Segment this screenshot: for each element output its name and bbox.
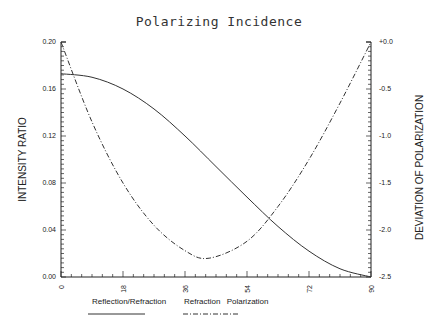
y2-tick-label: -2.0 bbox=[379, 226, 391, 233]
y2-tick-label: +0.0 bbox=[379, 38, 393, 45]
y-tick-label: 0.12 bbox=[42, 132, 56, 139]
y-tick-label: 0.16 bbox=[42, 85, 56, 92]
x-tick-label: 36 bbox=[182, 285, 189, 293]
y-tick-label: 0.00 bbox=[42, 273, 56, 280]
plot-area: 0.000.040.080.120.160.20-2.5-2.0-1.5-1.0… bbox=[0, 0, 438, 329]
legend-label-refraction-polarization: Refraction Polarization bbox=[184, 297, 268, 306]
x-tick-label: 0 bbox=[58, 285, 65, 289]
refraction-polarization-line bbox=[61, 42, 371, 259]
y2-tick-label: -2.5 bbox=[379, 273, 391, 280]
y-tick-label: 0.04 bbox=[42, 226, 56, 233]
x-tick-label: 72 bbox=[306, 285, 313, 293]
y2-tick-label: -1.5 bbox=[379, 179, 391, 186]
y2-tick-label: -0.5 bbox=[379, 85, 391, 92]
x-tick-label: 54 bbox=[244, 285, 251, 293]
y-tick-label: 0.20 bbox=[42, 38, 56, 45]
x-tick-label: 90 bbox=[368, 285, 375, 293]
y2-axis-title: DEVIATION OF POLARIZATION bbox=[414, 95, 425, 240]
legend-label-reflection-refraction: Reflection/Refraction bbox=[92, 297, 166, 306]
y-tick-label: 0.08 bbox=[42, 179, 56, 186]
y-axis-title: INTENSITY RATIO bbox=[17, 117, 28, 202]
reflection-refraction-line bbox=[61, 74, 371, 277]
x-tick-label: 18 bbox=[120, 285, 127, 293]
y2-tick-label: -1.0 bbox=[379, 132, 391, 139]
